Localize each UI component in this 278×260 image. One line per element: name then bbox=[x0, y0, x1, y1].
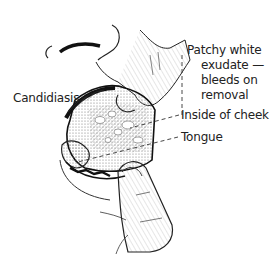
candidiasis-illustration bbox=[0, 0, 278, 260]
label-inside-of-cheek: Inside of cheek bbox=[181, 108, 269, 123]
label-patchy-line4: removal bbox=[201, 88, 248, 103]
label-patchy-line1: Patchy white bbox=[187, 43, 261, 58]
label-patchy-line2: exudate — bbox=[201, 58, 264, 73]
white-patch bbox=[95, 117, 105, 124]
figure-title: Candidiasis bbox=[13, 91, 79, 106]
label-tongue: Tongue bbox=[181, 130, 223, 145]
white-patch bbox=[114, 129, 122, 135]
lower-thumb bbox=[100, 162, 173, 254]
white-patch bbox=[133, 137, 143, 143]
label-patchy-line3: bleeds on bbox=[201, 73, 258, 88]
nose bbox=[46, 25, 119, 60]
white-patch bbox=[105, 138, 111, 143]
white-patch bbox=[108, 111, 116, 117]
white-patch bbox=[122, 121, 134, 129]
